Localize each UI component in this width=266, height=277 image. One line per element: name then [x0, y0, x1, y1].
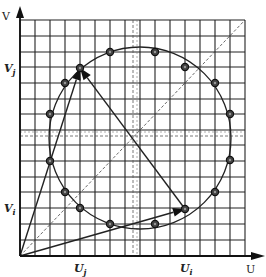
circle-point-center — [64, 82, 66, 84]
circle-point-center — [49, 160, 51, 162]
x-axis-arrow-icon — [251, 252, 265, 260]
circle-point-center — [184, 208, 186, 210]
vector-to-ui — [20, 212, 173, 256]
tick-label-vi: Vi — [4, 202, 16, 217]
circle-point-center — [109, 51, 111, 53]
tick-label-ui: Ui — [180, 262, 193, 277]
vector-to-vj — [20, 79, 76, 256]
tick-label-uj: Uj — [74, 262, 87, 277]
circle-point-center — [229, 159, 231, 161]
y-axis-arrow-icon — [16, 6, 24, 18]
circle-point-center — [184, 66, 186, 68]
circle-point-center — [79, 67, 81, 69]
circle-point-center — [64, 191, 66, 193]
circle-point-center — [154, 223, 156, 225]
tick-label-vj: Vj — [4, 62, 16, 77]
circle-point-center — [154, 51, 156, 53]
circle-point-center — [49, 113, 51, 115]
labels: V U VjViUjUi — [1, 10, 255, 277]
y-axis-label: V — [1, 10, 11, 23]
circle-point-center — [229, 113, 231, 115]
circle-point-center — [214, 82, 216, 84]
circle-point-center — [109, 223, 111, 225]
vectors — [20, 68, 185, 256]
circle-point-center — [79, 207, 81, 209]
circle-point-center — [214, 191, 216, 193]
diagram-canvas: V U VjViUjUi — [0, 0, 266, 277]
x-axis-label: U — [246, 263, 255, 276]
